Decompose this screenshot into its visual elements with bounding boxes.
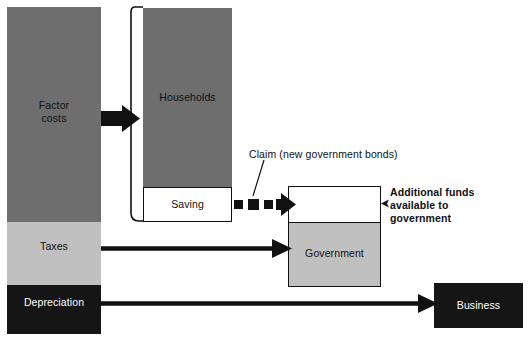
additional-funds-pointer-icon xyxy=(381,200,389,208)
business-label: Business xyxy=(434,299,523,312)
government-label: Government xyxy=(288,247,381,260)
depreciation-label: Depreciation xyxy=(4,296,104,309)
factor-costs-label-line1: Factor xyxy=(7,99,101,112)
additional-funds-label-line2: available to xyxy=(390,199,448,212)
factor-costs-label-line2: costs xyxy=(7,112,101,125)
claim-annotation-label: Claim (new government bonds) xyxy=(249,148,398,161)
additional-funds-label-line3: government xyxy=(390,212,451,225)
flow-factor-costs-to-households xyxy=(101,105,140,132)
segment-taxes[interactable] xyxy=(7,222,101,285)
saving-label: Saving xyxy=(143,198,232,211)
flow-taxes-to-government xyxy=(101,239,292,258)
national-income-column xyxy=(7,7,101,334)
additional-funds-label-line1: Additional funds xyxy=(390,186,474,199)
segment-additional-funds[interactable] xyxy=(288,186,381,223)
segment-depreciation[interactable] xyxy=(7,285,101,334)
flow-saving-to-government-dashed xyxy=(234,193,296,216)
taxes-label: Taxes xyxy=(7,240,101,253)
claim-leader-line xyxy=(253,160,264,196)
flow-depreciation-to-business xyxy=(101,294,438,313)
households-label: Households xyxy=(143,91,232,104)
households-bracket-outline xyxy=(131,7,143,221)
economic-flow-diagram: Factor costs Taxes Depreciation Househol… xyxy=(0,0,532,341)
